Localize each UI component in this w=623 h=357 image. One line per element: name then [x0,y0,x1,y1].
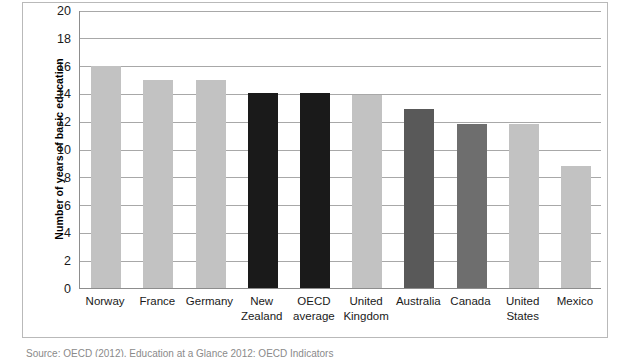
y-axis-tick-label: 2 [31,255,71,268]
x-axis-category-label: Germany [183,294,235,309]
x-axis-category-label: Mexico [549,294,601,309]
bar [352,95,382,288]
x-axis-category-labels: NorwayFranceGermanyNew ZealandOECD avera… [79,294,601,336]
bar [91,66,121,288]
bar [248,93,278,288]
bar [561,166,591,288]
y-axis-tick-labels: 02468101214161820 [31,11,71,289]
y-axis-tick-label: 8 [31,172,71,185]
y-axis-tick-label: 18 [31,33,71,46]
bar [457,124,487,288]
bar [300,93,330,288]
x-axis-category-label: United Kingdom [340,294,392,323]
bar [196,80,226,289]
x-axis-category-label: France [131,294,183,309]
y-axis-tick-label: 12 [31,116,71,129]
x-axis-category-label: Norway [79,294,131,309]
y-axis-tick-label: 0 [31,283,71,296]
y-axis-tick-label: 6 [31,199,71,212]
y-axis-tick-label: 16 [31,60,71,73]
source-caption: Source: OECD (2012), Education at a Glan… [26,347,586,357]
x-axis-line [80,288,601,289]
x-axis-category-label: United States [497,294,549,323]
plot-area [79,11,601,289]
x-axis-category-label: New Zealand [236,294,288,323]
y-axis-tick-label: 10 [31,144,71,157]
x-axis-category-label: OECD average [288,294,340,323]
bar [404,109,434,288]
chart-figure: Number of years of basic education 02468… [22,2,608,338]
y-axis-tick-label: 20 [31,5,71,18]
y-axis-tick-label: 14 [31,88,71,101]
x-axis-category-label: Australia [392,294,444,309]
bar-series [80,11,601,289]
bar [509,124,539,288]
x-axis-category-label: Canada [444,294,496,309]
y-axis-tick-label: 4 [31,227,71,240]
bar [143,80,173,289]
